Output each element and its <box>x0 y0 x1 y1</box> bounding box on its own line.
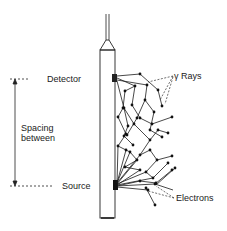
source-label: Source <box>62 181 91 191</box>
gamma-rays-label: γ Rays <box>174 71 202 81</box>
spacing-label-line2: between <box>21 133 55 143</box>
spacing-label-line1: Spacing <box>21 123 54 133</box>
detector-label: Detector <box>47 74 81 84</box>
detector-block <box>112 74 117 82</box>
cable <box>106 14 109 40</box>
interaction-points <box>117 73 177 207</box>
electrons-label: Electrons <box>176 193 214 203</box>
tool-body <box>100 40 115 218</box>
